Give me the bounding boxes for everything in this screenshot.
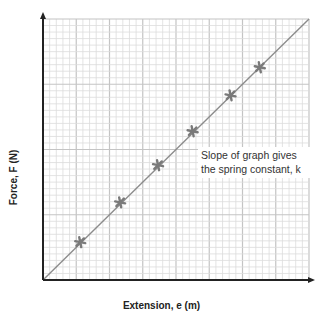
data-point-marker [226,90,236,100]
slope-annotation: Slope of graph gives the spring constant… [198,147,312,178]
data-point-marker [115,197,125,207]
y-axis-label: Force, F (N) [8,123,19,233]
data-point-marker [153,160,163,170]
y-axis-arrow-icon [40,12,46,19]
data-point-marker [255,62,265,72]
x-axis-arrow-icon [308,277,315,283]
x-axis-label: Extension, e (m) [0,300,323,311]
